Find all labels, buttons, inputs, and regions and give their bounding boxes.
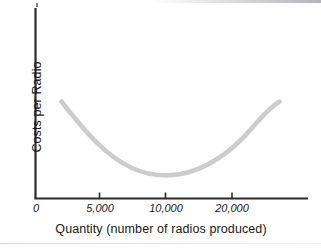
x-tick-label-0: 0	[33, 202, 39, 214]
y-axis-label: Costs per Radio	[30, 37, 44, 177]
x-tick-label-20000: 20,000	[215, 202, 249, 214]
x-axis-label: Quantity (number of radios produced)	[16, 222, 306, 236]
x-tick-label-10000: 10,000	[149, 202, 183, 214]
x-tick-label-5000: 5,000	[86, 202, 114, 214]
average-cost-curve	[62, 102, 280, 176]
chart-figure: Costs per Radio 0 5,000 10,000 20,000 Qu…	[0, 0, 321, 251]
